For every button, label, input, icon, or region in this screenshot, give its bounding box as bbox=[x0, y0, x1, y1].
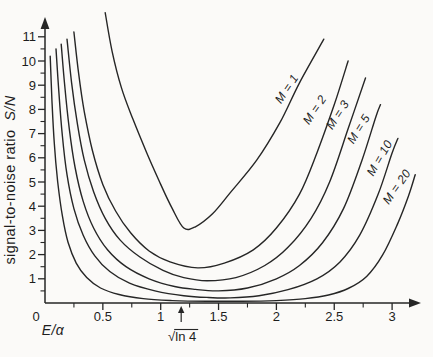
y-tick-label: 4 bbox=[29, 199, 36, 214]
x-tick-label: 1.5 bbox=[210, 309, 228, 324]
curve-M=10 bbox=[56, 49, 398, 298]
x-tick-label: 1 bbox=[157, 309, 164, 324]
y-tick-label: 8 bbox=[29, 102, 36, 117]
x-origin-label: 0 bbox=[32, 309, 39, 324]
y-tick-label: 5 bbox=[29, 175, 36, 190]
y-tick-label: 1 bbox=[29, 271, 36, 286]
y-tick-label: 9 bbox=[29, 78, 36, 93]
curve-M=1 bbox=[105, 13, 324, 230]
x-tick-label: 2 bbox=[273, 309, 280, 324]
y-tick-label: 2 bbox=[29, 247, 36, 262]
curve-M=5 bbox=[61, 44, 380, 291]
y-axis-label: signal-to-noise ratio S/N bbox=[2, 95, 18, 264]
y-tick-label: 10 bbox=[22, 54, 36, 69]
x-tick-label: 3 bbox=[388, 309, 395, 324]
x-tick-label: 2.5 bbox=[325, 309, 343, 324]
x-axis-arrowhead bbox=[409, 299, 421, 308]
figure-canvas: 0.511.522.5301234567891011M = 1M = 2M = … bbox=[0, 0, 433, 357]
y-tick-label: 11 bbox=[23, 29, 37, 44]
y-tick-label: 7 bbox=[29, 126, 36, 141]
y-tick-label: 3 bbox=[29, 223, 36, 238]
y-tick-label: 6 bbox=[29, 150, 36, 165]
sqrt-ln4-label: √ln 4 bbox=[168, 329, 196, 344]
annotation-arrow-head bbox=[178, 306, 184, 313]
y-axis-arrowhead bbox=[41, 17, 50, 29]
x-axis-label: E/α bbox=[42, 322, 65, 338]
sn-chart-svg: 0.511.522.5301234567891011M = 1M = 2M = … bbox=[0, 0, 433, 357]
curve-M=2 bbox=[74, 32, 348, 268]
x-tick-label: 0.5 bbox=[94, 309, 112, 324]
